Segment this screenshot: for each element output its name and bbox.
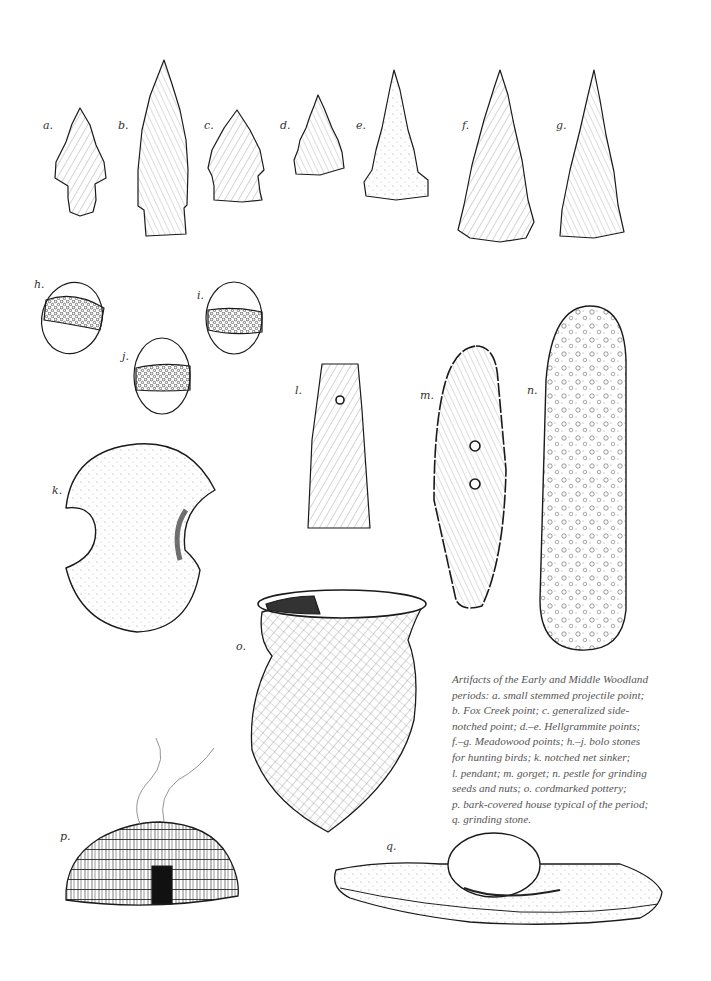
caption-line: l. pendant; m. gorget; n. pestle for gri…: [452, 766, 710, 782]
artifact-j-bolo-stone: [134, 338, 190, 414]
label-e: e.: [356, 119, 366, 132]
label-c: c.: [204, 119, 214, 132]
label-f: f.: [462, 119, 469, 132]
caption-line: for hunting birds; k. notched net sinker…: [452, 750, 710, 766]
caption-line: notched point; d.–e. Hellgrammite points…: [452, 719, 710, 735]
artifact-m-gorget: [434, 346, 506, 608]
figure-caption: Artifacts of the Early and Middle Woodla…: [452, 672, 710, 828]
artifact-a-stemmed-point: [55, 108, 106, 216]
caption-line: b. Fox Creek point; c. generalized side-: [452, 703, 710, 719]
label-a: a.: [43, 119, 53, 132]
label-i: i.: [197, 289, 204, 302]
caption-line: Artifacts of the Early and Middle Woodla…: [452, 672, 710, 688]
label-g: g.: [556, 119, 567, 132]
artifact-e-hellgrammite-point: [364, 70, 428, 200]
label-q: q.: [386, 840, 397, 853]
label-l: l.: [295, 384, 302, 397]
artifact-b-fox-creek-point: [138, 60, 188, 236]
artifact-o-cordmarked-pottery: [251, 590, 426, 832]
artifact-q-grinding-stone: [335, 833, 662, 924]
caption-line: q. grinding stone.: [452, 812, 710, 828]
label-b: b.: [118, 119, 129, 132]
artifact-g-meadowood-point: [560, 70, 624, 238]
caption-line: f.–g. Meadowood points; h.–j. bolo stone…: [452, 734, 710, 750]
artifact-f-meadowood-point: [458, 70, 534, 242]
label-d: d.: [280, 119, 291, 132]
artifact-p-bark-house: [66, 738, 238, 905]
artifact-k-net-sinker: [66, 444, 215, 632]
label-n: n.: [527, 384, 538, 397]
artifact-d-hellgrammite-point: [294, 95, 344, 175]
caption-line: seeds and nuts; o. cordmarked pottery;: [452, 781, 710, 797]
artifact-c-side-notched-point: [208, 110, 264, 202]
artifact-l-pendant: [308, 364, 370, 528]
caption-line: p. bark-covered house typical of the per…: [452, 797, 710, 813]
label-h: h.: [34, 278, 45, 291]
label-p: p.: [60, 830, 71, 843]
artifact-h-bolo-stone: [34, 275, 111, 360]
artifact-i-bolo-stone: [206, 282, 262, 354]
caption-line: periods: a. small stemmed projectile poi…: [452, 688, 710, 704]
label-k: k.: [52, 484, 62, 497]
label-j: j.: [122, 350, 129, 363]
label-o: o.: [236, 640, 246, 653]
artifact-n-pestle: [540, 306, 626, 650]
label-m: m.: [420, 389, 434, 402]
artifact-plate-illustration: [0, 0, 711, 981]
